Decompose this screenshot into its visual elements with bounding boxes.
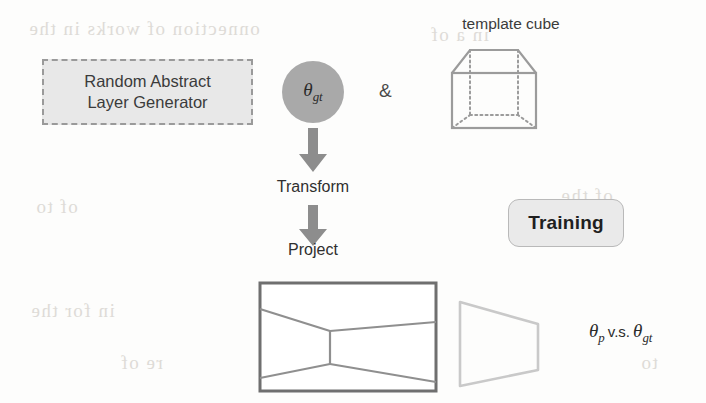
training-box: Training (508, 199, 624, 247)
ghost-text: in for the (30, 300, 115, 322)
theta-gt-label: θgt (303, 79, 322, 105)
ghost-text: re of (120, 352, 163, 374)
generator-label-line2: Layer Generator (87, 92, 207, 113)
theta-gt-symbol: θgt (633, 320, 652, 341)
theta-gt-node: θgt (282, 61, 344, 123)
random-abstract-layer-generator-box: Random Abstract Layer Generator (42, 59, 253, 125)
template-cube-shape (436, 40, 556, 140)
training-label: Training (528, 212, 604, 234)
theta-comparison-label: θpv.s.θgt (589, 320, 652, 346)
figure-canvas: onnection of works in the in a of of the… (0, 0, 706, 403)
generator-label-line1: Random Abstract (84, 71, 211, 92)
comparison-operator: v.s. (605, 323, 633, 340)
step-label-project: Project (233, 241, 393, 259)
template-cube-label: template cube (441, 15, 581, 33)
ghost-text: onnection of works in the (28, 18, 260, 40)
conjunction-label: & (379, 80, 392, 102)
theta-p-symbol: θp (589, 320, 605, 341)
ghost-text: to (640, 352, 658, 374)
projected-room-view (258, 281, 438, 393)
predicted-layout-trapezoid (452, 280, 562, 392)
step-label-transform: Transform (233, 178, 393, 196)
ghost-text: of to (35, 196, 78, 218)
transform-arrow-icon (297, 128, 329, 173)
